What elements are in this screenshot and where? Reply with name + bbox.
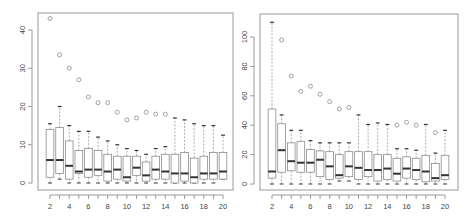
outlier-point [144, 110, 148, 114]
box-18 [422, 124, 430, 184]
box-iqr [85, 149, 93, 178]
box-iqr [75, 150, 83, 173]
box-9 [335, 107, 343, 181]
box-14 [161, 112, 169, 183]
box-15 [393, 123, 401, 184]
y-tick-label: 40 [18, 26, 27, 34]
box-2 [46, 17, 54, 183]
y-tick-label: 80 [240, 62, 249, 70]
x-tick-label: 18 [200, 202, 208, 211]
boxplot-figure: 0102030402468101214161820 02040608010024… [0, 0, 476, 218]
x-tick-label: 2 [48, 202, 52, 211]
y-tick-label: 100 [240, 31, 249, 44]
box-18 [200, 126, 208, 183]
x-tick-label: 8 [328, 202, 332, 211]
box-8 [104, 101, 112, 183]
outlier-point [135, 116, 139, 120]
x-tick-label: 14 [161, 202, 169, 211]
box-iqr [316, 151, 324, 177]
x-axis: 2468101214161820 [48, 195, 227, 211]
x-tick-label: 20 [219, 202, 227, 211]
boxplot-figure-svg: 0102030402468101214161820 02040608010024… [0, 0, 476, 218]
box-12 [364, 124, 372, 184]
outlier-point [337, 107, 341, 111]
box-iqr [297, 141, 305, 172]
outlier-point [67, 66, 71, 70]
boxplot-panel-left: 0102030402468101214161820 [18, 13, 233, 211]
box-5 [297, 89, 305, 184]
outlier-point [280, 38, 284, 42]
box-3 [56, 53, 64, 179]
x-tick-label: 4 [289, 202, 293, 211]
box-6 [307, 84, 315, 184]
box-14 [383, 124, 391, 184]
box-iqr [383, 155, 391, 180]
box-10 [345, 106, 353, 182]
box-13 [374, 123, 382, 184]
box-16 [181, 120, 189, 183]
box-iqr [190, 158, 198, 183]
box-iqr [104, 154, 112, 181]
box-iqr [355, 152, 363, 180]
box-11 [133, 116, 141, 183]
x-tick-label: 8 [106, 202, 110, 211]
outlier-point [96, 101, 100, 105]
outlier-point [308, 84, 312, 88]
x-tick-label: 16 [402, 202, 410, 211]
outlier-point [405, 120, 409, 124]
outlier-point [86, 95, 90, 99]
box-9 [113, 110, 121, 183]
x-tick-label: 6 [308, 202, 312, 211]
x-tick-label: 16 [180, 202, 188, 211]
box-iqr [171, 154, 179, 183]
box-iqr [345, 152, 353, 177]
box-iqr [412, 158, 420, 179]
box-iqr [65, 141, 73, 179]
box-iqr [200, 156, 208, 179]
box-iqr [210, 152, 218, 179]
box-8 [326, 100, 334, 184]
box-iqr [403, 157, 411, 178]
outlier-point [289, 74, 293, 78]
y-tick-label: 40 [240, 121, 249, 129]
box-iqr [113, 156, 121, 179]
box-iqr [181, 152, 189, 181]
box-iqr [422, 155, 430, 181]
box-iqr [287, 143, 295, 171]
box-6 [85, 95, 93, 183]
box-16 [403, 120, 411, 184]
box-iqr [364, 152, 372, 177]
x-tick-label: 2 [270, 202, 274, 211]
x-tick-label: 12 [364, 202, 372, 211]
x-tick-label: 20 [441, 202, 449, 211]
y-tick-label: 0 [240, 182, 249, 186]
y-tick-label: 20 [240, 150, 249, 158]
box-iqr [278, 124, 286, 173]
y-tick-label: 10 [18, 141, 27, 149]
box-11 [355, 115, 363, 184]
box-iqr [152, 156, 160, 179]
outlier-point [115, 110, 119, 114]
box-iqr [142, 162, 150, 181]
x-tick-label: 6 [86, 202, 90, 211]
box-iqr [133, 156, 141, 175]
box-iqr [56, 128, 64, 174]
box-2 [268, 22, 276, 184]
box-iqr [46, 129, 54, 177]
outlier-point [48, 17, 52, 21]
box-4 [287, 74, 295, 184]
x-tick-label: 18 [422, 202, 430, 211]
outlier-point [299, 89, 303, 93]
box-17 [190, 124, 198, 183]
outlier-point [77, 78, 81, 82]
box-20 [441, 130, 449, 184]
outlier-point [347, 106, 351, 110]
y-tick-label: 0 [18, 181, 27, 185]
outlier-point [125, 118, 129, 122]
box-7 [316, 92, 324, 184]
y-tick-label: 60 [240, 92, 249, 100]
x-tick-label: 4 [67, 202, 71, 211]
box-4 [65, 66, 73, 183]
y-tick-label: 30 [18, 64, 27, 72]
box-5 [75, 78, 83, 183]
